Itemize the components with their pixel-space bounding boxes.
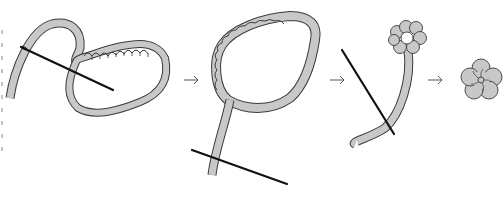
step-1-illustration — [10, 23, 166, 113]
arrow-right-icon — [184, 76, 198, 84]
step-3-illustration — [342, 21, 427, 145]
arrow-right-icon — [330, 76, 344, 84]
step-2-illustration — [192, 16, 316, 184]
needle-icon — [192, 150, 287, 184]
ribbon-flower-diagram — [0, 0, 503, 198]
needle-icon — [342, 50, 394, 134]
arrow-right-icon — [428, 76, 442, 84]
step-4-finished-flower — [461, 59, 502, 99]
